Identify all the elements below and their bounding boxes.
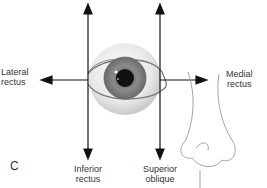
nose-outline <box>181 72 235 188</box>
label-inferior-rectus: Inferior rectus <box>66 164 110 184</box>
eye-muscle-diagram <box>0 0 267 188</box>
label-lateral-rectus: Lateral rectus <box>1 67 29 87</box>
panel-label: C <box>10 159 19 173</box>
down-arrowhead-icon <box>156 149 164 159</box>
eyeball <box>88 43 166 115</box>
pupil <box>116 69 134 87</box>
label-superior-oblique: Superior oblique <box>137 164 183 184</box>
up-arrowhead-icon <box>156 4 164 14</box>
up-arrowhead-icon <box>84 4 92 14</box>
down-arrowhead-icon <box>84 149 92 159</box>
right-arrowhead-icon <box>196 76 207 84</box>
left-arrowhead-icon <box>41 76 52 84</box>
label-medial-rectus: Medial rectus <box>226 69 253 89</box>
